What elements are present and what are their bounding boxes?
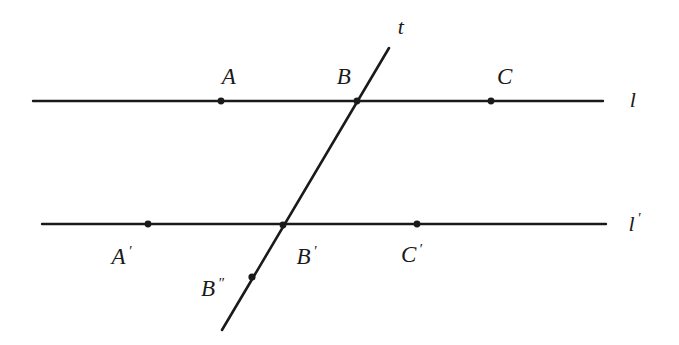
geometry-diagram-svg (0, 0, 679, 345)
line-label-t-text: t (398, 14, 405, 39)
geometry-figure-canvas: A B C A′ B′ C′ B″ l l′ t (0, 0, 679, 345)
point-label-b-text: B (337, 64, 352, 89)
point-c-prime-dot (414, 221, 421, 228)
point-label-b-double-prime-text: B (201, 276, 216, 301)
double-prime-mark: ″ (216, 275, 225, 291)
point-label-c: C (497, 65, 513, 88)
point-label-b-prime: B′ (297, 244, 318, 269)
point-label-a-prime-text: A (112, 244, 127, 269)
point-label-a: A (222, 65, 237, 88)
point-c-dot (488, 98, 495, 105)
prime-mark: ′ (635, 210, 641, 226)
prime-mark: ′ (417, 241, 423, 257)
point-b-double-prime-dot (248, 273, 255, 280)
point-label-c-prime: C′ (401, 242, 423, 267)
line-t-stroke (222, 48, 389, 330)
point-a-dot (218, 98, 225, 105)
point-b-prime-dot (280, 222, 287, 229)
point-label-b-prime-text: B (297, 244, 312, 269)
point-label-c-prime-text: C (401, 242, 417, 267)
point-label-a-prime: A′ (112, 244, 133, 269)
line-label-t: t (398, 16, 405, 38)
line-label-l-prime: l′ (629, 211, 642, 235)
point-b-dot (354, 98, 361, 105)
point-label-b-double-prime: B″ (201, 276, 225, 301)
line-label-l-text: l (630, 87, 637, 112)
point-label-b: B (337, 65, 352, 88)
line-label-l-prime-text: l (629, 211, 636, 236)
point-label-c-text: C (497, 64, 513, 89)
point-label-a-text: A (222, 64, 237, 89)
line-label-l: l (630, 89, 637, 111)
point-a-prime-dot (145, 221, 152, 228)
prime-mark: ′ (311, 243, 317, 259)
prime-mark: ′ (126, 243, 132, 259)
